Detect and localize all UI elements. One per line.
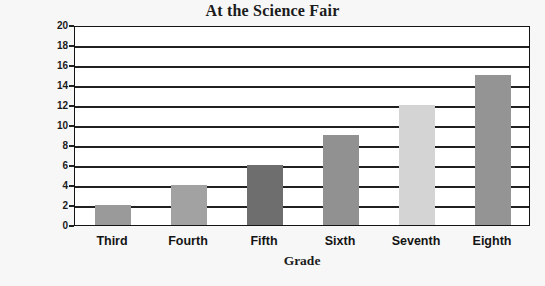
y-tick-label: 0 — [38, 221, 68, 231]
x-tick-label: Eighth — [442, 234, 542, 248]
y-tick-label: 18 — [38, 41, 68, 51]
plot-inner — [75, 27, 529, 225]
bar-seventh — [399, 105, 435, 225]
y-tick-label: 14 — [38, 81, 68, 91]
y-tick-label: 12 — [38, 101, 68, 111]
bar-third — [95, 205, 131, 225]
y-tick-label: 16 — [38, 61, 68, 71]
gridline — [75, 146, 529, 147]
gridline — [75, 46, 529, 47]
gridline — [75, 66, 529, 67]
gridline — [75, 186, 529, 187]
bar-fourth — [171, 185, 207, 225]
x-axis-title: Grade — [74, 253, 530, 269]
gridline — [75, 126, 529, 127]
y-tick-label: 20 — [38, 21, 68, 31]
plot-area — [74, 26, 530, 226]
bar-eighth — [475, 75, 511, 225]
y-tick-label: 8 — [38, 141, 68, 151]
y-tick-label: 6 — [38, 161, 68, 171]
gridline — [75, 86, 529, 87]
gridline — [75, 206, 529, 207]
gridline — [75, 166, 529, 167]
bar-sixth — [323, 135, 359, 225]
y-tick-label: 10 — [38, 121, 68, 131]
chart-title: At the Science Fair — [0, 2, 545, 20]
gridline — [75, 106, 529, 107]
y-tick-label: 2 — [38, 201, 68, 211]
y-tick-label: 4 — [38, 181, 68, 191]
bar-fifth — [247, 165, 283, 225]
